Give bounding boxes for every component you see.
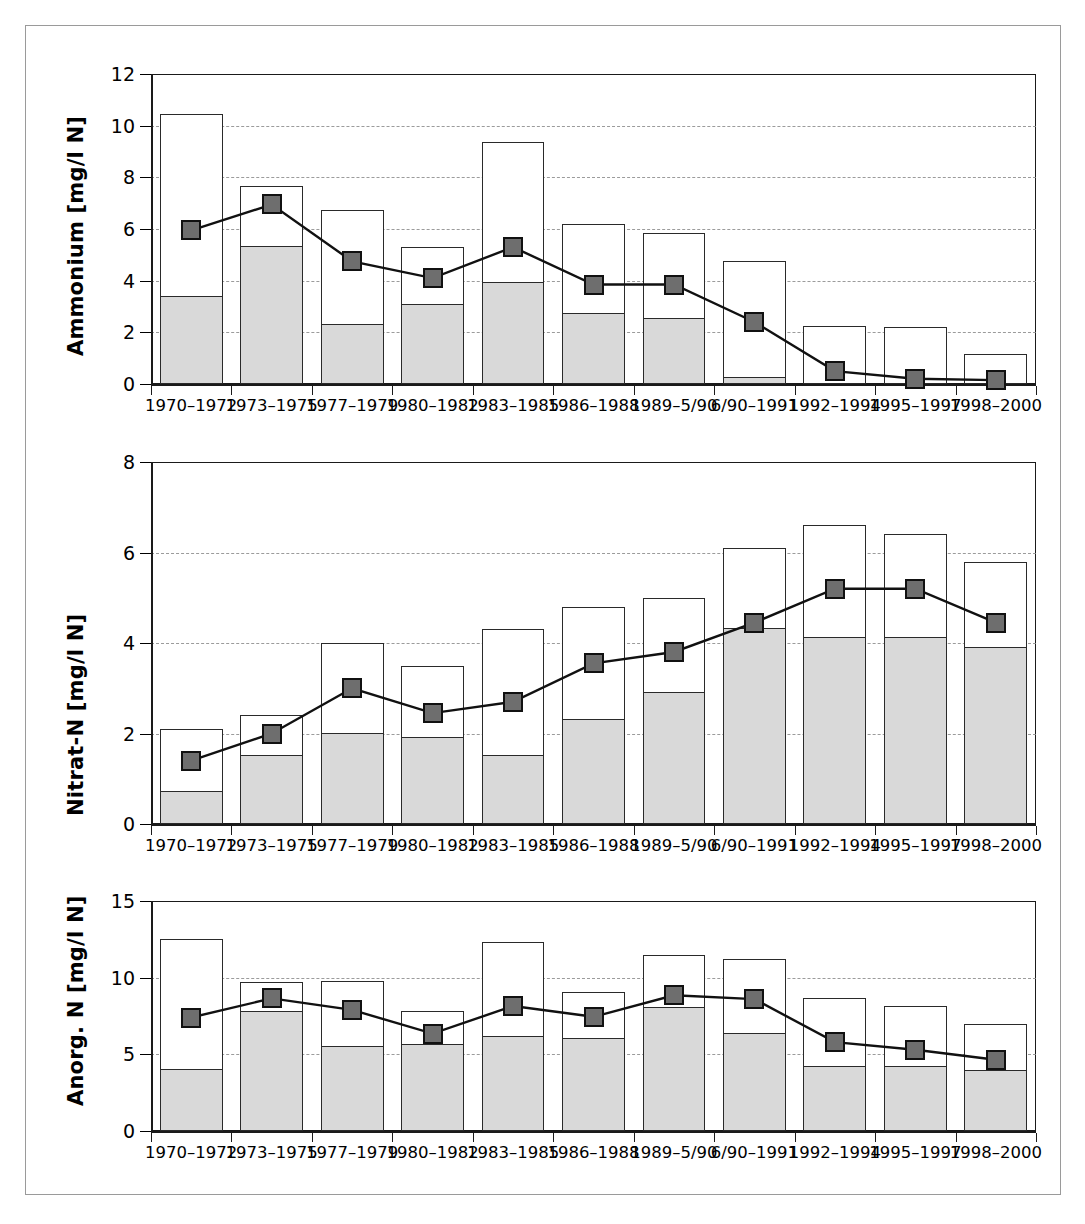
x-axis-tick-label: 1983–1985 — [467, 396, 559, 415]
x-axis-tick-label: 1977–1979 — [306, 396, 398, 415]
x-axis-tick — [795, 826, 796, 835]
data-point-marker — [664, 642, 684, 662]
x-axis-tick — [1036, 826, 1037, 835]
data-point-marker — [503, 692, 523, 712]
x-axis-tick — [392, 386, 393, 395]
x-axis-tick — [231, 1133, 232, 1142]
x-axis-tick — [956, 1133, 957, 1142]
y-axis-tick-label: 8 — [99, 166, 135, 188]
bar-filled-segment — [724, 628, 785, 823]
data-point-marker — [423, 703, 443, 723]
x-axis-tick-label: 1989–5/90 — [630, 836, 717, 855]
x-axis-tick — [714, 386, 715, 395]
data-point-marker — [423, 1024, 443, 1044]
x-axis-tick — [875, 1133, 876, 1142]
data-point-marker — [181, 751, 201, 771]
y-axis-label: Ammonium [mg/l N] — [64, 116, 88, 356]
bar-filled-segment — [563, 719, 624, 823]
bar-filled-segment — [322, 324, 383, 383]
y-axis-tick-label: 15 — [99, 890, 135, 912]
y-axis-tick — [140, 978, 151, 979]
x-axis-tick — [392, 1133, 393, 1142]
x-axis-tick-label: 1995–1997 — [869, 396, 961, 415]
x-axis-tick — [1036, 1133, 1037, 1142]
y-axis-tick-label: 4 — [99, 632, 135, 654]
y-axis-tick — [140, 1054, 151, 1055]
x-axis-tick — [553, 826, 554, 835]
x-axis-tick-label: 1980–1982 — [386, 1143, 478, 1162]
bar-filled-segment — [241, 246, 302, 383]
x-axis-tick — [956, 386, 957, 395]
data-point-marker — [503, 996, 523, 1016]
bar — [884, 1006, 947, 1131]
bar — [321, 210, 384, 384]
y-axis-tick — [140, 901, 151, 902]
data-point-marker — [262, 724, 282, 744]
y-axis-tick — [140, 126, 151, 127]
x-axis-tick-label: 1973–1975 — [226, 836, 318, 855]
y-axis-tick — [140, 229, 151, 230]
bar — [723, 959, 786, 1131]
bar — [562, 224, 625, 384]
x-axis-tick-label: 6/90–1991 — [711, 1143, 798, 1162]
x-axis-tick — [634, 386, 635, 395]
data-point-marker — [905, 369, 925, 389]
y-axis-tick-label: 4 — [99, 270, 135, 292]
x-axis-tick-label: 1980–1982 — [386, 396, 478, 415]
x-axis-tick-label: 1989–5/90 — [630, 1143, 717, 1162]
x-axis-tick-label: 1986–1988 — [547, 1143, 639, 1162]
bar-filled-segment — [402, 304, 463, 383]
x-axis-tick-label: 1983–1985 — [467, 1143, 559, 1162]
data-point-marker — [584, 653, 604, 673]
y-axis-tick — [140, 734, 151, 735]
figure-frame: Ammonium [mg/l N]0246810121970–19721973–… — [25, 25, 1061, 1195]
y-axis-tick — [140, 643, 151, 644]
x-axis-tick — [151, 826, 152, 835]
x-axis-tick — [875, 826, 876, 835]
gridline — [151, 177, 1036, 178]
bar-filled-segment — [563, 313, 624, 383]
bar-filled-segment — [322, 1046, 383, 1130]
bar — [482, 142, 545, 384]
y-axis-tick — [140, 462, 151, 463]
data-point-marker — [342, 251, 362, 271]
x-axis-tick-label: 1980–1982 — [386, 836, 478, 855]
bar-filled-segment — [965, 647, 1026, 823]
y-axis-tick-label: 12 — [99, 63, 135, 85]
y-axis-tick-label: 8 — [99, 451, 135, 473]
x-axis-tick — [151, 1133, 152, 1142]
data-point-marker — [744, 312, 764, 332]
gridline — [151, 978, 1036, 979]
x-axis-tick — [634, 1133, 635, 1142]
x-axis-tick-label: 1995–1997 — [869, 836, 961, 855]
data-point-marker — [262, 988, 282, 1008]
x-axis-tick-label: 1970–1972 — [145, 836, 237, 855]
x-axis-tick-label: 1977–1979 — [306, 1143, 398, 1162]
x-axis-tick-label: 1992–1994 — [789, 836, 881, 855]
bar-filled-segment — [241, 755, 302, 823]
x-axis-tick-label: 6/90–1991 — [711, 836, 798, 855]
data-point-marker — [342, 1000, 362, 1020]
x-axis-tick-label: 1998–2000 — [950, 836, 1042, 855]
data-point-marker — [744, 989, 764, 1009]
bar-filled-segment — [402, 737, 463, 823]
bar — [240, 186, 303, 384]
bar — [562, 607, 625, 824]
x-axis-tick-label: 1998–2000 — [950, 1143, 1042, 1162]
bar-filled-segment — [483, 755, 544, 823]
x-axis-tick — [875, 386, 876, 395]
x-axis-line — [151, 824, 1036, 826]
data-point-marker — [825, 1032, 845, 1052]
x-axis-line — [151, 384, 1036, 386]
bar — [643, 598, 706, 824]
x-axis-tick — [634, 826, 635, 835]
x-axis-tick — [231, 826, 232, 835]
x-axis-tick — [392, 826, 393, 835]
x-axis-tick-label: 1986–1988 — [547, 396, 639, 415]
x-axis-tick-label: 1970–1972 — [145, 1143, 237, 1162]
x-axis-tick-label: 1977–1979 — [306, 836, 398, 855]
x-axis-tick-label: 6/90–1991 — [711, 396, 798, 415]
x-axis-tick-label: 1973–1975 — [226, 396, 318, 415]
y-axis-tick-label: 2 — [99, 723, 135, 745]
bar-filled-segment — [161, 791, 222, 823]
